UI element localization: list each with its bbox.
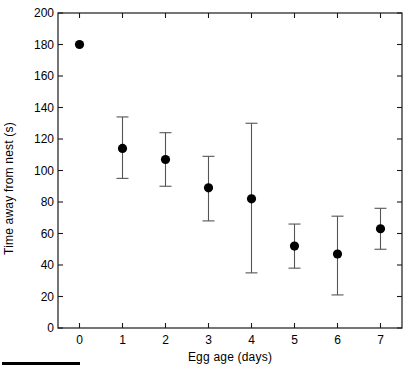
data-point-marker [75, 40, 84, 49]
axis-box [58, 13, 402, 328]
data-point-marker [333, 249, 342, 258]
data-point-marker [290, 242, 299, 251]
scale-bar [2, 362, 80, 365]
data-point-marker [118, 144, 127, 153]
data-series [75, 40, 387, 295]
axis-ticks [58, 13, 402, 328]
data-point-marker [247, 194, 256, 203]
data-point-marker [161, 155, 170, 164]
data-point-marker [376, 224, 385, 233]
plot-area [0, 0, 409, 377]
data-point-marker [204, 183, 213, 192]
axes-frame [58, 13, 402, 328]
chart-figure: Time away from nest (s) 0204060801001201… [0, 0, 409, 377]
